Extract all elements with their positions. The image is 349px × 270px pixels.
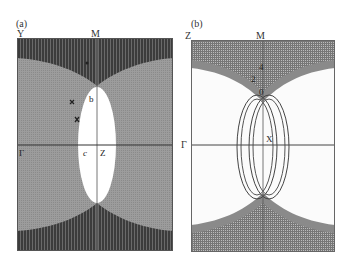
label-z: Z bbox=[100, 148, 106, 158]
label-b: b bbox=[89, 94, 94, 104]
label-x: X bbox=[266, 134, 273, 144]
panel-a-plot: b c Z Γ bbox=[17, 38, 173, 251]
label-c: c bbox=[83, 148, 87, 158]
panel-b-tag: (b) bbox=[191, 18, 203, 29]
panel-a-left-mid-label: Γ bbox=[19, 148, 24, 158]
label-4: 4 bbox=[259, 62, 264, 72]
panel-b-left-mid-label: Γ bbox=[181, 139, 187, 150]
label-2: 2 bbox=[251, 74, 256, 84]
label-0: 0 bbox=[259, 87, 264, 97]
panel-b-plot: X 4 2 0 bbox=[191, 40, 335, 252]
marker-dot-icon bbox=[86, 62, 89, 65]
